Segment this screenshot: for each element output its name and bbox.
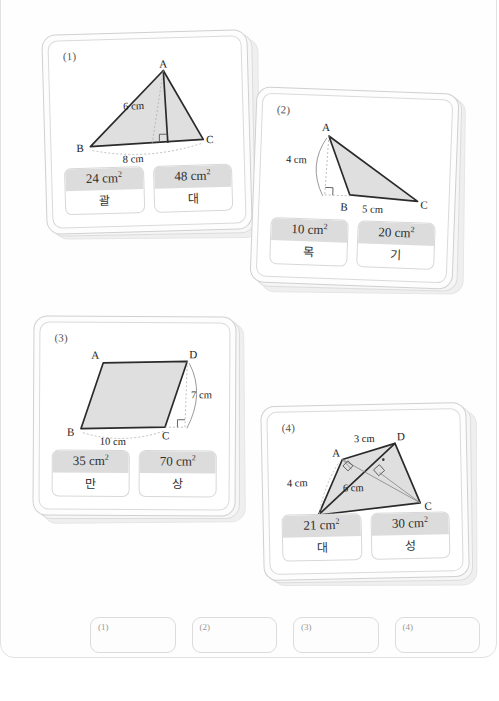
vertex-label-c: C: [206, 133, 214, 145]
card-face[interactable]: (1) A B C 6: [41, 29, 253, 235]
answer-slot-2[interactable]: (2): [192, 617, 278, 653]
problem-card-4[interactable]: (4): [260, 402, 470, 581]
height-label: 6 cm: [123, 100, 144, 112]
vertex-label-a: A: [159, 57, 167, 69]
answer-options-3[interactable]: 35 cm2 만 70 cm2 상: [52, 450, 217, 498]
vertex-label-c: C: [424, 500, 432, 512]
triangle-2-svg: A B C 4 cm 5 cm: [273, 112, 437, 220]
answer-key: 상: [140, 473, 216, 497]
answer-option[interactable]: 20 cm2 기: [356, 220, 436, 270]
card-face[interactable]: (4): [260, 402, 470, 581]
problem-card-1[interactable]: (1) A B C 6: [41, 29, 253, 235]
height-label: 7 cm: [191, 389, 212, 400]
card-face[interactable]: (3) A B C D: [32, 315, 236, 516]
answer-key: 대: [283, 536, 361, 561]
answer-key: 대: [154, 186, 232, 212]
answer-key: 성: [371, 534, 449, 559]
answer-key: 기: [357, 243, 434, 269]
vertex-label-c: C: [161, 429, 168, 441]
answer-slot-row: (1) (2) (3) (4): [90, 617, 480, 653]
answer-value: 48 cm2: [153, 165, 231, 189]
answer-option[interactable]: 10 cm2 목: [269, 217, 349, 267]
answer-value: 20 cm2: [358, 221, 435, 245]
answer-option[interactable]: 35 cm2 만: [52, 450, 130, 497]
figure-triangle-2: A B C 4 cm 5 cm: [259, 112, 452, 221]
answer-value: 21 cm2: [282, 514, 360, 537]
answer-option[interactable]: 48 cm2 대: [152, 164, 233, 213]
card-inner-border: (2) A B C 4 cm: [256, 93, 454, 284]
figure-parallelogram-3: A B C D 7 cm 10 cm: [40, 341, 230, 450]
base-label: 5 cm: [362, 203, 383, 215]
answer-key: 괄: [66, 189, 144, 215]
vertex-label-b: B: [340, 200, 348, 212]
answer-value: 35 cm2: [53, 451, 129, 473]
answer-key: 목: [270, 240, 347, 266]
vertex-label-b: B: [66, 426, 73, 438]
answer-slot-3[interactable]: (3): [293, 617, 379, 653]
problem-card-3[interactable]: (3) A B C D: [32, 315, 236, 516]
base-label: 8 cm: [123, 153, 144, 165]
vertex-label-c: C: [420, 198, 428, 210]
card-inner-border: (4): [266, 408, 463, 575]
vertex-label-a: A: [322, 121, 330, 133]
answer-slot-1[interactable]: (1): [90, 617, 176, 653]
base-label: 10 cm: [99, 436, 125, 447]
answer-value: 70 cm2: [140, 451, 216, 473]
answer-key: 만: [53, 472, 129, 496]
answer-slot-label: (3): [301, 622, 312, 632]
height-label: 4 cm: [285, 153, 306, 165]
answer-slot-4[interactable]: (4): [395, 617, 481, 653]
height-label-2: 3 cm: [354, 433, 375, 444]
parallelogram-3-svg: A B C D 7 cm 10 cm: [54, 341, 215, 450]
card-inner-border: (3) A B C D: [39, 322, 231, 511]
card-inner-border: (1) A B C 6: [47, 35, 246, 228]
vertex-label-a: A: [91, 349, 99, 361]
card-face[interactable]: (2) A B C 4 cm: [249, 86, 459, 289]
answer-slot-label: (4): [403, 622, 414, 632]
answer-slot-label: (1): [98, 622, 109, 632]
answer-slot-label: (2): [200, 622, 211, 632]
answer-value: 30 cm2: [371, 512, 449, 535]
answer-option[interactable]: 21 cm2 대: [281, 513, 361, 562]
figure-triangle-1: A B C 6 cm 8 cm: [49, 54, 244, 167]
answer-option[interactable]: 30 cm2 성: [370, 511, 450, 560]
vertex-label-b: B: [76, 142, 84, 154]
diagonal-label: 6 cm: [343, 482, 364, 493]
answer-option[interactable]: 70 cm2 상: [139, 450, 217, 497]
problem-card-2[interactable]: (2) A B C 4 cm: [249, 86, 459, 289]
vertex-label-d: D: [189, 348, 197, 360]
vertex-label-d: D: [397, 430, 405, 442]
answer-options-2[interactable]: 10 cm2 목 20 cm2 기: [269, 217, 436, 270]
answer-options-4[interactable]: 21 cm2 대 30 cm2 성: [281, 511, 450, 562]
vertex-label-a: A: [332, 447, 340, 459]
answer-option[interactable]: 24 cm2 괄: [64, 166, 145, 215]
height-label-1: 4 cm: [287, 477, 308, 488]
answer-value: 24 cm2: [65, 167, 143, 191]
answer-options-1[interactable]: 24 cm2 괄 48 cm2 대: [64, 164, 233, 216]
answer-value: 10 cm2: [271, 218, 348, 242]
triangle-1-svg: A B C 6 cm 8 cm: [70, 55, 223, 167]
